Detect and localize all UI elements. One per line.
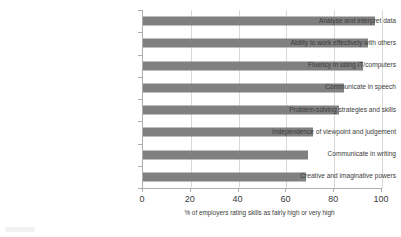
x-axis-tick [333, 188, 334, 192]
x-axis-tick-label: 0 [122, 194, 162, 205]
x-axis-tick-label: 40 [218, 194, 258, 205]
x-axis-line [142, 188, 381, 189]
gridline [382, 10, 383, 188]
category-axis-label: Creative and imaginative powers [265, 172, 401, 180]
y-axis-tick [138, 55, 142, 56]
y-axis-tick [138, 10, 142, 11]
plot-area [142, 10, 382, 188]
x-axis-tick-label: 20 [170, 194, 210, 205]
y-axis-tick [138, 166, 142, 167]
category-axis-label: Problem-solving strategies and skills [265, 106, 401, 114]
x-axis-tick [381, 188, 382, 192]
y-axis-tick [138, 32, 142, 33]
x-axis-tick [238, 188, 239, 192]
category-axis-label: Fluency in using IT/computers [265, 61, 401, 69]
category-axis-label: Communicate in speech [265, 83, 401, 91]
x-axis-tick [285, 188, 286, 192]
x-axis-tick-label: 60 [265, 194, 305, 205]
x-axis-tick-label: 100 [361, 194, 401, 205]
y-axis-tick [138, 99, 142, 100]
category-axis-label: Communicate in writing [265, 150, 401, 158]
bar-chart-figure: Analyse and interpret dataAbility to wor… [0, 0, 401, 237]
x-axis-title: % of employers rating skills as fairly h… [0, 209, 401, 216]
category-axis-label: Ability to work effectively with others [265, 39, 401, 47]
category-axis-label: Independence of viewpoint and judgement [265, 128, 401, 136]
x-axis-tick [142, 188, 143, 192]
y-axis-tick [138, 121, 142, 122]
x-axis-tick [190, 188, 191, 192]
scan-artifact [5, 227, 35, 232]
y-axis-tick [138, 77, 142, 78]
category-axis-label: Analyse and interpret data [265, 17, 401, 25]
x-axis-tick-label: 80 [313, 194, 353, 205]
y-axis-tick [138, 144, 142, 145]
